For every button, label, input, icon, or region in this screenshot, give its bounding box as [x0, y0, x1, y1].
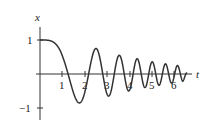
- x-tick-label-1: 1: [59, 79, 65, 91]
- y-axis-label: x: [34, 11, 40, 23]
- chart-svg: x t 1 −1 1 2 3 4 5 6: [0, 0, 201, 125]
- x-tick-label-6: 6: [171, 79, 177, 91]
- x-axis-label: t: [196, 68, 200, 80]
- x-tick-label-5: 5: [149, 79, 155, 91]
- y-tick-label-neg1: −1: [19, 102, 31, 114]
- y-tick-label-1: 1: [27, 34, 33, 46]
